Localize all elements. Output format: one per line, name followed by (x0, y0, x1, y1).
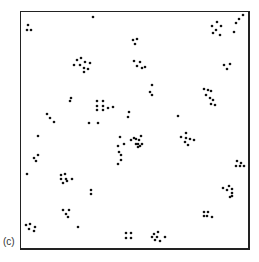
dot (226, 68, 229, 71)
dot (238, 18, 241, 21)
dot (107, 107, 110, 110)
dot (203, 215, 206, 218)
dot (233, 31, 236, 34)
dot (60, 178, 63, 181)
dot (212, 32, 215, 35)
dot (235, 22, 238, 25)
dot (123, 143, 126, 146)
dot (62, 209, 65, 212)
dot (125, 237, 128, 240)
dot (140, 135, 143, 138)
dot (89, 62, 92, 65)
dot (154, 239, 157, 242)
dot (102, 100, 105, 103)
dot (133, 60, 136, 63)
dot (132, 39, 135, 42)
dot (205, 94, 208, 97)
dot (151, 236, 154, 239)
dot (102, 105, 105, 108)
dot (243, 165, 246, 168)
dot (236, 160, 239, 163)
dot (49, 117, 52, 120)
dot (144, 66, 147, 69)
dot (118, 151, 121, 154)
dot (79, 64, 82, 67)
dot (28, 228, 31, 231)
dot (117, 163, 120, 166)
dot (235, 165, 238, 168)
dot (185, 137, 188, 140)
dot (214, 104, 217, 107)
dot (222, 187, 225, 190)
dot (137, 146, 140, 149)
dot (65, 213, 68, 216)
dot (60, 174, 63, 177)
dot (159, 240, 162, 243)
dot (240, 162, 243, 165)
dot (211, 25, 214, 28)
dot (117, 145, 120, 148)
dot (87, 68, 90, 71)
dot (53, 121, 56, 124)
dot (219, 34, 222, 37)
dot (66, 180, 69, 183)
dot (88, 122, 91, 125)
dot (206, 215, 209, 218)
dot (34, 226, 37, 229)
dot (130, 237, 133, 240)
dot (149, 91, 152, 94)
dot (37, 154, 40, 157)
dot (212, 99, 215, 102)
dot (33, 157, 36, 160)
dot (223, 64, 226, 67)
dot (26, 173, 29, 176)
dot (231, 195, 234, 198)
dot (207, 89, 210, 92)
dot (102, 109, 105, 112)
dot (215, 29, 218, 32)
dot (135, 138, 138, 141)
dot (70, 97, 73, 100)
dot (137, 143, 140, 146)
dot (90, 189, 93, 192)
dot (33, 230, 36, 233)
dot (96, 100, 99, 103)
dot (37, 135, 40, 138)
dot (30, 29, 33, 32)
dot (187, 144, 190, 147)
dot (193, 139, 196, 142)
dot (71, 178, 74, 181)
dot (203, 88, 206, 91)
dot (62, 182, 65, 185)
dot (139, 61, 142, 64)
dot (184, 141, 187, 144)
dot (216, 21, 219, 24)
dot (77, 226, 80, 229)
dot (46, 113, 49, 116)
dot (242, 14, 245, 17)
dot (112, 106, 115, 109)
dot (189, 138, 192, 141)
dot (153, 233, 156, 236)
dot (84, 61, 87, 64)
dot (80, 57, 83, 60)
dot (138, 139, 141, 142)
dot (130, 232, 133, 235)
dot (67, 216, 70, 219)
dot (64, 173, 67, 176)
dot (136, 65, 139, 68)
dot (27, 24, 30, 27)
dot (119, 136, 122, 139)
dot (209, 97, 212, 100)
dot (128, 111, 131, 114)
dot (207, 211, 210, 214)
dot (151, 84, 154, 87)
dot (228, 185, 231, 188)
dot (127, 116, 130, 119)
dot (151, 94, 154, 97)
dot (25, 224, 28, 227)
dot-pattern (0, 0, 259, 262)
dot (90, 193, 93, 196)
dot (92, 16, 95, 19)
dot (26, 29, 29, 32)
